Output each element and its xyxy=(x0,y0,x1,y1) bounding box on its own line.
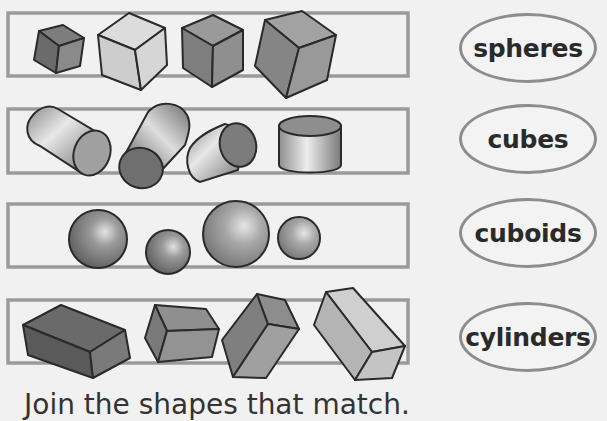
label-cylinders[interactable]: cylinders xyxy=(459,302,597,372)
label-cylinders-text: cylinders xyxy=(465,323,590,352)
instruction-text: Join the shapes that match. xyxy=(24,388,410,421)
cube-1 xyxy=(34,25,84,73)
cylinder-2 xyxy=(113,104,189,195)
sphere-1 xyxy=(69,210,127,268)
label-cubes[interactable]: cubes xyxy=(459,104,597,174)
label-cuboids[interactable]: cuboids xyxy=(459,198,597,268)
cylinder-1 xyxy=(27,107,117,181)
label-spheres[interactable]: spheres xyxy=(459,13,597,83)
cuboid-4 xyxy=(314,288,405,380)
cube-2 xyxy=(98,13,167,90)
cuboid-2 xyxy=(145,305,219,362)
cube-4 xyxy=(255,11,336,98)
spheres-group xyxy=(69,201,320,274)
sphere-4 xyxy=(278,217,320,259)
cuboid-3 xyxy=(222,294,299,378)
cuboid-1 xyxy=(23,305,130,378)
label-cuboids-text: cuboids xyxy=(475,219,582,248)
cylinders-group xyxy=(27,104,341,195)
cuboids-group xyxy=(23,288,405,380)
label-cubes-text: cubes xyxy=(488,125,569,154)
cylinder-4 xyxy=(279,116,341,173)
label-spheres-text: spheres xyxy=(473,34,583,63)
cubes-group xyxy=(34,11,336,98)
sphere-2 xyxy=(146,230,190,274)
sphere-3 xyxy=(203,201,269,267)
